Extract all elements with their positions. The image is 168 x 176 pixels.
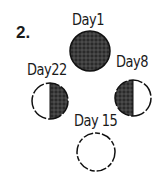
moon-day22-icon (32, 83, 68, 119)
moon-day8-icon (115, 80, 151, 116)
moon-phase-diagram (0, 0, 168, 176)
moon-day1-icon (70, 31, 110, 71)
moon-day15-icon (77, 133, 115, 171)
